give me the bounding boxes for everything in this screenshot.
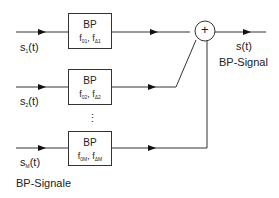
filter-title: BP [69,75,111,86]
input-label-2: s2(t) [20,95,39,111]
output-caption: BP-Signal [219,56,268,68]
bandpass-filter-M: BP f0M, fΔM [68,131,112,166]
inputs-caption: BP-Signale [16,177,71,189]
filter-title: BP [69,137,111,148]
filter-params: f0M, fΔM [69,151,111,165]
filter-params: f02, fΔ2 [69,89,111,103]
output-label: s(t) [236,40,252,52]
connection-lines [0,0,279,198]
filter-params: f01, fΔ1 [69,33,111,47]
vertical-ellipsis: ⋮ [87,113,98,124]
summer-plus-symbol: + [201,24,209,36]
input-label-1: s1(t) [20,41,39,57]
filter-title: BP [69,19,111,30]
bandpass-filter-1: BP f01, fΔ1 [68,13,112,49]
bandpass-filter-2: BP f02, fΔ2 [68,69,112,105]
input-label-M: sM(t) [20,156,40,172]
